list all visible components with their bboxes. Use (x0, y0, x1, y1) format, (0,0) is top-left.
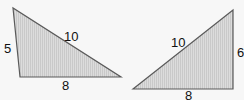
diagram-svg: 5 10 8 10 6 8 (0, 0, 244, 100)
left-triangle-base-label: 8 (62, 78, 69, 93)
right-triangle-base-label: 8 (185, 88, 192, 100)
right-triangle-hypotenuse-label: 10 (171, 35, 185, 50)
right-triangle-side-label: 6 (237, 45, 244, 60)
left-triangle-hypotenuse-label: 10 (64, 29, 78, 44)
left-triangle-side-label: 5 (4, 41, 11, 56)
triangle-diagram: 5 10 8 10 6 8 (0, 0, 244, 100)
